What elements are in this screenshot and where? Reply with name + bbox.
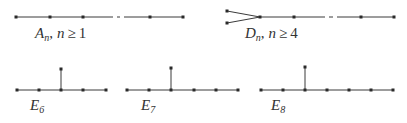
node bbox=[193, 89, 196, 92]
diagram-canvas: An,n≥1 Dn,n≥4 E6 E7 E8 bbox=[0, 0, 407, 123]
label-d-n: Dn,n≥4 bbox=[244, 25, 298, 43]
node bbox=[60, 68, 63, 71]
diagram-d-n bbox=[226, 10, 396, 25]
node bbox=[326, 89, 329, 92]
label-e7: E7 bbox=[140, 97, 156, 115]
node bbox=[348, 89, 351, 92]
node bbox=[293, 16, 296, 19]
diagram-e7 bbox=[126, 67, 240, 92]
node bbox=[370, 89, 373, 92]
node bbox=[15, 16, 18, 19]
label-e8: E8 bbox=[270, 97, 285, 115]
node bbox=[226, 10, 229, 13]
node bbox=[393, 16, 396, 19]
node bbox=[215, 89, 218, 92]
node bbox=[304, 89, 307, 92]
node bbox=[60, 89, 63, 92]
node bbox=[170, 89, 173, 92]
node bbox=[82, 16, 85, 19]
node bbox=[237, 89, 240, 92]
node bbox=[282, 89, 285, 92]
node bbox=[259, 16, 262, 19]
node bbox=[38, 89, 41, 92]
edge bbox=[227, 17, 260, 23]
dynkin-diagrams-figure: An,n≥1 Dn,n≥4 E6 E7 E8 bbox=[0, 0, 407, 123]
label-e6: E6 bbox=[29, 97, 44, 115]
node bbox=[360, 16, 363, 19]
node bbox=[105, 89, 108, 92]
label-a-n: An,n≥1 bbox=[34, 25, 86, 43]
node bbox=[226, 22, 229, 25]
diagram-e6 bbox=[16, 68, 108, 92]
diagram-a-n bbox=[15, 16, 185, 19]
node bbox=[170, 67, 173, 70]
node bbox=[16, 89, 19, 92]
edge bbox=[227, 11, 260, 17]
node bbox=[260, 89, 263, 92]
node bbox=[182, 16, 185, 19]
node bbox=[392, 89, 395, 92]
node bbox=[82, 89, 85, 92]
node bbox=[126, 89, 129, 92]
node bbox=[304, 66, 307, 69]
node bbox=[149, 16, 152, 19]
diagram-e8 bbox=[260, 66, 395, 92]
node bbox=[148, 89, 151, 92]
node bbox=[49, 16, 52, 19]
